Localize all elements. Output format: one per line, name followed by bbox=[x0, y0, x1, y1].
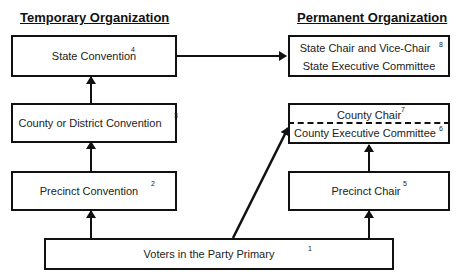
precinct-chair-label: Precinct Chair bbox=[290, 185, 442, 197]
county-organization-box: County Chair 7 County Executive Committe… bbox=[288, 103, 450, 144]
voters-label: Voters in the Party Primary bbox=[46, 248, 372, 260]
precinct-convention-box: Precinct Convention 2 bbox=[11, 171, 177, 211]
county-convention-box: County or District Convention 3 bbox=[11, 103, 177, 143]
state-chair-note: 8 bbox=[439, 41, 443, 48]
precinct-convention-note: 2 bbox=[151, 180, 155, 187]
precinct-chair-box: Precinct Chair 5 bbox=[288, 171, 450, 211]
precinct-convention-label: Precinct Convention bbox=[13, 185, 165, 197]
state-committee-label: State Executive Committee bbox=[290, 60, 448, 72]
precinct-chair-note: 5 bbox=[403, 180, 407, 187]
state-convention-label: State Convention bbox=[13, 50, 175, 62]
temporary-organization-heading: Temporary Organization bbox=[20, 10, 169, 25]
county-chair-note: 7 bbox=[401, 106, 405, 113]
state-chair-box: State Chair and Vice-Chair 8 State Execu… bbox=[288, 35, 450, 77]
county-chair-label: County Chair bbox=[290, 109, 448, 121]
county-convention-note: 3 bbox=[174, 112, 178, 119]
state-convention-box: State Convention 4 bbox=[11, 35, 177, 77]
voters-note: 1 bbox=[308, 245, 312, 252]
county-divider-dashed bbox=[288, 122, 450, 124]
state-convention-note: 4 bbox=[131, 46, 135, 53]
permanent-organization-heading: Permanent Organization bbox=[297, 10, 447, 25]
voters-box: Voters in the Party Primary 1 bbox=[44, 238, 394, 270]
county-committee-note: 6 bbox=[439, 125, 443, 132]
arrow-voters-to-county-chair bbox=[233, 128, 288, 238]
state-chair-label: State Chair and Vice-Chair bbox=[290, 42, 440, 54]
county-convention-label: County or District Convention bbox=[13, 117, 167, 129]
county-committee-label: County Executive Committee bbox=[290, 127, 440, 139]
